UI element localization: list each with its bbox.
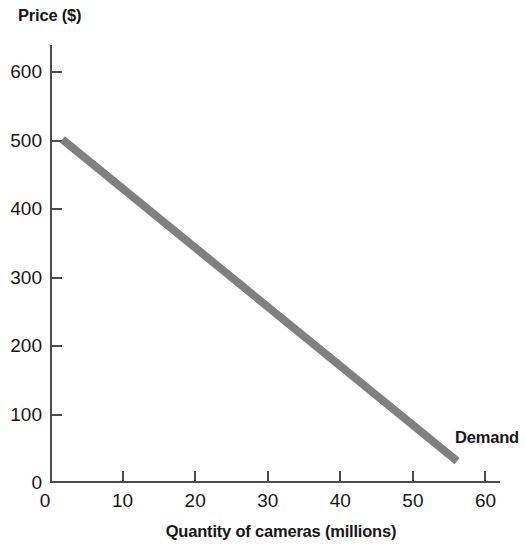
y-axis-tick [52, 277, 62, 279]
y-axis-tick [52, 71, 62, 73]
x-axis-tick-label: 60 [475, 490, 496, 512]
y-axis-tick-labels: 0100200300400500600 [0, 45, 42, 483]
x-axis-tick-labels: 0102030405060 [50, 490, 500, 516]
y-axis-title: Price ($) [18, 6, 81, 25]
y-axis-tick-label: 200 [10, 335, 42, 357]
x-axis-line [50, 481, 500, 483]
x-axis-tick-label: 50 [402, 490, 423, 512]
x-axis-tick-label: 0 [40, 490, 51, 512]
x-axis-tick [194, 471, 196, 481]
x-axis-tick-label: 30 [257, 490, 278, 512]
x-axis-tick [484, 471, 486, 481]
x-axis-tick-label: 20 [185, 490, 206, 512]
y-axis-tick-label: 100 [10, 404, 42, 426]
x-axis-tick [267, 471, 269, 481]
demand-series-label: Demand [455, 428, 519, 447]
x-axis-tick-label: 40 [330, 490, 351, 512]
y-axis-tick-label: 300 [10, 267, 42, 289]
demand-curve-chart: Price ($) 0100200300400500600 Demand 010… [0, 0, 526, 551]
plot-area [50, 45, 500, 483]
x-axis-tick [339, 471, 341, 481]
x-axis-tick [412, 471, 414, 481]
y-axis-tick-label: 400 [10, 198, 42, 220]
y-axis-tick [52, 140, 62, 142]
y-axis-tick-label: 500 [10, 130, 42, 152]
y-axis-tick-label: 600 [10, 61, 42, 83]
y-axis-tick [52, 345, 62, 347]
y-axis-line [50, 45, 52, 483]
x-axis-tick [122, 471, 124, 481]
y-axis-tick [52, 208, 62, 210]
x-axis-title: Quantity of cameras (millions) [0, 522, 526, 541]
x-axis-tick-label: 10 [112, 490, 133, 512]
y-axis-tick [52, 414, 62, 416]
